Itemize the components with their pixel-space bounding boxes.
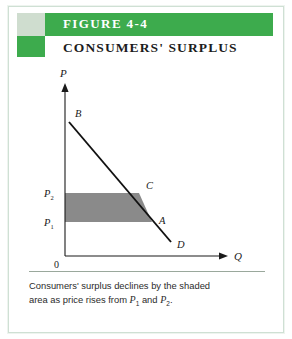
caption-line-1: Consumers' surplus declines by the shade… [29, 279, 267, 293]
point-label-d: D [176, 239, 185, 250]
caption-line-2: area as price rises from P1 and P2. [29, 293, 267, 311]
origin-label: 0 [54, 259, 59, 270]
point-label-c: C [146, 180, 154, 191]
figure-card: FIGURE 4-4 CONSUMERS' SURPLUS P Q 0 P2 [8, 6, 284, 333]
accent-block-green [17, 36, 45, 57]
price-level-p1-label: P1 [43, 217, 54, 230]
figure-header: FIGURE 4-4 CONSUMERS' SURPLUS [9, 7, 283, 69]
chart-area: P Q 0 P2 P1 B C A D [9, 65, 283, 273]
figure-caption: Consumers' surplus declines by the shade… [29, 279, 267, 311]
price-axis-arrowhead [61, 83, 68, 92]
quantity-axis-arrowhead [219, 252, 228, 259]
caption-conjunction: and [139, 294, 160, 305]
price-axis-label: P [59, 67, 67, 79]
caption-period: . [170, 294, 173, 305]
caption-line-2-pre: area as price rises from [29, 294, 130, 305]
price-level-p2-label: P2 [43, 188, 54, 201]
point-label-a: A [158, 215, 166, 226]
supply-demand-chart: P Q 0 P2 P1 B C A D [9, 65, 285, 273]
figure-number-bar: FIGURE 4-4 [45, 13, 273, 36]
quantity-axis-label: Q [234, 250, 242, 262]
figure-number-label: FIGURE 4-4 [63, 16, 148, 32]
demand-curve [69, 122, 171, 242]
caption-divider [29, 271, 265, 272]
shaded-surplus-region [65, 193, 152, 222]
figure-title: CONSUMERS' SURPLUS [63, 40, 238, 56]
point-label-b: B [75, 108, 82, 119]
